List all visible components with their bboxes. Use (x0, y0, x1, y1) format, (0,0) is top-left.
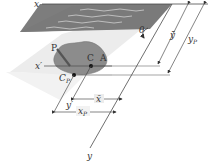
diagram-canvas: x y θ P x′ C A CP y′ ȳ yP x̄ xP (0, 0, 210, 163)
y-bar-label: ȳ (169, 30, 176, 40)
submerged-area (54, 42, 107, 75)
x-bar-label: x̄ (96, 94, 101, 104)
x-prime-label: x′ (35, 61, 42, 71)
y-p-label: yP (187, 34, 198, 45)
y-prime-label: y′ (65, 100, 73, 110)
area-label: A (99, 53, 107, 63)
y-axis-label: y (86, 151, 93, 161)
x-axis-label: x (34, 0, 39, 9)
centroid-label: C (87, 53, 94, 63)
inclined-plate-lower (6, 72, 84, 100)
force-p-label: P (51, 43, 57, 53)
theta-label: θ (139, 25, 145, 35)
